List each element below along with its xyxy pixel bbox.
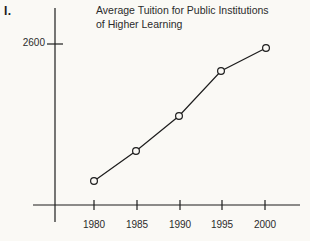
x-tick-label-1995: 1995 [202, 219, 242, 230]
x-tick-label-1985: 1985 [117, 219, 157, 230]
data-point-1990 [176, 113, 183, 120]
line-chart-graphic [0, 0, 310, 241]
data-point-1995 [218, 68, 225, 75]
axes [33, 8, 300, 222]
data-point-1980 [91, 178, 98, 185]
data-point-markers [91, 45, 270, 185]
x-tick-label-1990: 1990 [160, 219, 200, 230]
data-point-2000 [263, 45, 270, 52]
chart-page: I. Average Tuition for Public Institutio… [0, 0, 310, 241]
y-tick-label-2600: 2600 [0, 37, 45, 48]
x-tick-label-1980: 1980 [74, 219, 114, 230]
x-tick-label-2000: 2000 [245, 219, 285, 230]
data-point-1985 [133, 148, 140, 155]
